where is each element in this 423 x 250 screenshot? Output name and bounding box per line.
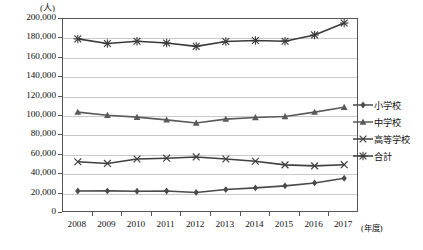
x-axis-unit-label: (年度) (361, 221, 383, 233)
diamond-marker-icon (352, 99, 374, 111)
data-point-diamond (312, 180, 317, 187)
data-point-diamond (105, 187, 110, 194)
data-point-asterisk (281, 37, 290, 46)
y-axis-tick-label: 120,000 (0, 91, 56, 100)
x-axis-tick-mark (121, 212, 122, 216)
data-point-asterisk (359, 151, 368, 160)
data-point-diamond (360, 101, 365, 108)
legend-label: 小学校 (374, 98, 401, 112)
data-point-diamond (134, 188, 139, 195)
data-point-diamond (342, 175, 347, 182)
y-axis-tick-label: 80,000 (0, 129, 56, 138)
y-axis-tick-label: 40,000 (0, 168, 56, 177)
data-point-diamond (75, 188, 80, 195)
data-point-asterisk (192, 42, 201, 51)
x-axis-tick-mark (210, 212, 211, 216)
x-marker-icon (352, 133, 374, 145)
x-axis-tick-mark (299, 212, 300, 216)
y-axis-tick-mark (58, 212, 62, 213)
asterisk-marker-icon (352, 150, 374, 162)
series-line (78, 178, 344, 192)
x-axis-tick-mark (240, 212, 241, 216)
chart-legend: 小学校中学校高等学校合計 (352, 96, 423, 164)
series-line (78, 157, 344, 166)
data-point-diamond (194, 189, 199, 196)
data-point-asterisk (133, 37, 142, 46)
series-3 (74, 19, 349, 51)
series-2 (74, 154, 347, 170)
legend-item-asterisk[interactable]: 合計 (352, 147, 423, 164)
plot-area (62, 18, 358, 212)
data-point-asterisk (103, 39, 112, 48)
y-axis-tick-label: 200,000 (0, 13, 56, 22)
y-axis-tick-label: 160,000 (0, 52, 56, 61)
series-0 (75, 175, 347, 196)
series-line (78, 23, 344, 46)
x-axis-tick-label: 2017 (323, 219, 363, 230)
y-axis-tick-label: 20,000 (0, 188, 56, 197)
series-line (78, 107, 344, 123)
legend-item-triangle[interactable]: 中学校 (352, 113, 423, 130)
y-axis-tick-label: 100,000 (0, 110, 56, 119)
data-point-asterisk (162, 39, 171, 48)
legend-item-diamond[interactable]: 小学校 (352, 96, 423, 113)
x-axis-tick-mark (151, 212, 152, 216)
x-axis-tick-mark (92, 212, 93, 216)
line-chart: (人) 200,000180,000160,000140,000120,0001… (0, 0, 423, 250)
y-axis-tick-label: 0 (0, 207, 56, 216)
data-point-asterisk (340, 19, 349, 27)
series-layer (63, 19, 359, 213)
data-point-asterisk (74, 35, 83, 44)
y-axis-tick-label: 140,000 (0, 71, 56, 80)
y-axis-tick-label: 180,000 (0, 32, 56, 41)
data-point-asterisk (222, 37, 231, 46)
legend-label: 中学校 (374, 115, 401, 129)
legend-item-x[interactable]: 高等学校 (352, 130, 423, 147)
data-point-diamond (223, 186, 228, 193)
data-point-diamond (253, 184, 258, 191)
data-point-diamond (164, 188, 169, 195)
triangle-marker-icon (352, 116, 374, 128)
legend-label: 合計 (374, 149, 392, 163)
x-axis-tick-mark (328, 212, 329, 216)
data-point-asterisk (251, 36, 260, 45)
data-point-diamond (282, 182, 287, 189)
data-point-asterisk (310, 31, 319, 39)
x-axis-tick-mark (269, 212, 270, 216)
y-axis-tick-label: 60,000 (0, 149, 56, 158)
legend-label: 高等学校 (374, 132, 410, 146)
x-axis-tick-mark (180, 212, 181, 216)
series-1 (74, 104, 347, 126)
